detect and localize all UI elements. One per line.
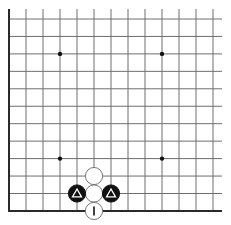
star-point bbox=[160, 52, 164, 56]
star-point bbox=[58, 156, 62, 160]
go-board bbox=[0, 0, 231, 225]
white-stone bbox=[85, 185, 102, 202]
white-stone bbox=[85, 167, 102, 184]
black-stone bbox=[102, 185, 119, 202]
black-stone bbox=[68, 185, 85, 202]
star-point bbox=[160, 156, 164, 160]
star-point bbox=[58, 52, 62, 56]
